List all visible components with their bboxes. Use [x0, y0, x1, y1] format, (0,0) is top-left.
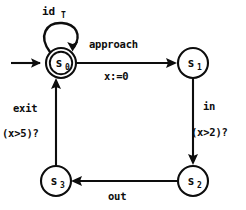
state-node-s0[interactable]: s 0: [46, 48, 76, 78]
transition-edge-exit: [51, 78, 61, 166]
state-label-s0: s: [56, 56, 63, 70]
state-sublabel-s2: 2: [197, 181, 202, 190]
self-loop-label-base: id: [42, 5, 55, 18]
state-label-s2: s: [188, 174, 195, 188]
self-loop-label-sub: T: [61, 11, 66, 20]
transition-guard-x-gt-5: (x>5)?: [2, 127, 39, 139]
transition-event-in: in: [203, 100, 215, 112]
transition-edge-in: [188, 78, 198, 165]
transition-edge-out: [71, 176, 178, 186]
state-sublabel-s3: 3: [60, 181, 65, 190]
initial-state-arrow: [11, 58, 41, 68]
transition-event-approach: approach: [89, 38, 138, 50]
state-label-s1: s: [188, 56, 195, 70]
state-diagram: s 0 s 1 s 2 s 3 id T approach x:=0: [0, 0, 246, 210]
state-label-s3: s: [51, 174, 58, 188]
state-node-s3[interactable]: s 3: [41, 166, 71, 196]
transition-action-assign-x: x:=0: [104, 70, 129, 82]
transition-edge-approach: [76, 58, 177, 68]
self-loop-label: id T: [42, 5, 66, 20]
transition-guard-x-gt-2: (x>2)?: [191, 126, 228, 138]
transition-event-out: out: [108, 190, 126, 202]
automaton-canvas: s 0 s 1 s 2 s 3 id T approach x:=0: [0, 0, 246, 210]
transition-event-exit: exit: [13, 102, 38, 114]
state-sublabel-s1: 1: [197, 63, 202, 72]
state-node-s1[interactable]: s 1: [178, 48, 208, 78]
state-node-s2[interactable]: s 2: [178, 166, 208, 196]
state-sublabel-s0: 0: [65, 63, 70, 72]
